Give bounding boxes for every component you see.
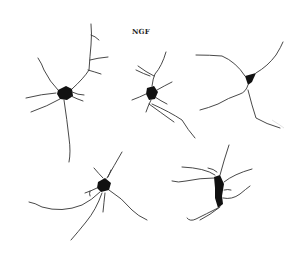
stray-mark bbox=[272, 120, 284, 128]
neuron-2 bbox=[132, 52, 195, 138]
neuron-drawings bbox=[0, 0, 303, 261]
neuron-4 bbox=[29, 152, 147, 240]
neuron-5 bbox=[172, 145, 252, 220]
neuron-3 bbox=[196, 42, 283, 128]
neuron-1 bbox=[26, 24, 108, 162]
